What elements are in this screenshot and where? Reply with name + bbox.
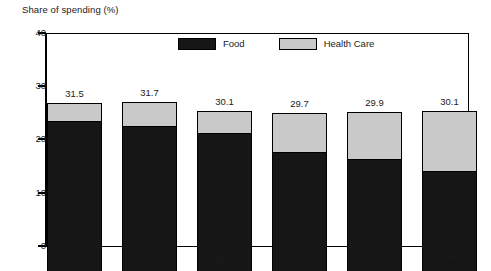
bar-group-1940[interactable]: 31.5	[47, 24, 102, 271]
bar-segment-health-care	[348, 113, 401, 159]
stacked-bar-chart: Share of spending (%) 40 30 20 10 0 Food…	[0, 0, 491, 271]
x-tick-label-1960: 1960	[197, 253, 252, 263]
bar-segment-health-care	[423, 112, 476, 171]
plot-frame	[47, 33, 469, 247]
x-tick-label-1950: 1950	[122, 253, 177, 263]
bar-total-label: 31.5	[65, 89, 84, 99]
y-tick-label: 40	[12, 28, 46, 38]
bar-segment-food	[48, 121, 101, 271]
bar-segment-food	[123, 126, 176, 271]
bar-group-1980[interactable]: 29.9	[347, 24, 402, 271]
bar-group-1960[interactable]: 30.1	[197, 24, 252, 271]
bar-total-label: 29.7	[290, 99, 309, 109]
bar-segment-health-care	[198, 112, 251, 133]
bar-segment-health-care	[123, 103, 176, 126]
x-tick-label-1990: 1990	[422, 253, 477, 263]
x-tick-label-1970: 1970	[272, 253, 327, 263]
bar-1990[interactable]	[422, 111, 477, 271]
bar-total-label: 31.7	[140, 88, 159, 98]
x-tick-label-1980: 1980	[347, 253, 402, 263]
y-tick-label: 0	[12, 241, 46, 251]
bar-group-1950[interactable]: 31.7	[122, 24, 177, 271]
bar-total-label: 30.1	[215, 97, 234, 107]
bar-total-label: 30.1	[440, 97, 459, 107]
bar-segment-health-care	[273, 114, 326, 152]
bar-segment-health-care	[48, 104, 101, 121]
bar-1970[interactable]	[272, 113, 327, 271]
y-axis-title: Share of spending (%)	[22, 4, 119, 15]
bar-group-1990[interactable]: 30.1	[422, 24, 477, 271]
bar-group-1970[interactable]: 29.7	[272, 24, 327, 271]
bar-1980[interactable]	[347, 112, 402, 271]
x-tick-label-1940: 1940	[47, 253, 102, 263]
y-tick-label: 20	[12, 134, 46, 144]
y-tick-label: 10	[12, 188, 46, 198]
bar-1940[interactable]	[47, 103, 102, 271]
bar-1950[interactable]	[122, 102, 177, 271]
bar-total-label: 29.9	[365, 98, 384, 108]
y-tick-label: 30	[12, 81, 46, 91]
bar-1960[interactable]	[197, 111, 252, 271]
bar-segment-food	[198, 133, 251, 271]
